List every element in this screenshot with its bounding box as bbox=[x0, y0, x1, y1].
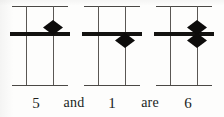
reckoning-beam bbox=[10, 32, 70, 36]
top-rail bbox=[84, 6, 140, 7]
bottom-rail bbox=[156, 85, 212, 86]
caption-token-addend-1: 5 bbox=[21, 95, 51, 112]
caption-token-are: are bbox=[127, 95, 173, 111]
reckoning-beam bbox=[154, 32, 214, 36]
bottom-rail bbox=[84, 85, 140, 86]
caption-row: 5 and 1 are 6 bbox=[0, 89, 224, 117]
rod-left bbox=[26, 6, 27, 86]
abacus-column-3 bbox=[156, 6, 212, 86]
top-rail bbox=[156, 6, 212, 7]
caption-token-and: and bbox=[51, 95, 97, 111]
reckoning-beam bbox=[82, 32, 142, 36]
diagram-canvas: 5 and 1 are 6 bbox=[0, 0, 224, 117]
bottom-rail bbox=[12, 85, 68, 86]
top-rail bbox=[12, 6, 68, 7]
caption-token-sum: 6 bbox=[173, 95, 203, 112]
caption-token-addend-2: 1 bbox=[97, 95, 127, 112]
rod-right bbox=[53, 6, 54, 86]
rod-left bbox=[98, 6, 99, 86]
abacus-column-2 bbox=[84, 6, 140, 86]
rod-left bbox=[170, 6, 171, 86]
abacus-column-1 bbox=[12, 6, 68, 86]
